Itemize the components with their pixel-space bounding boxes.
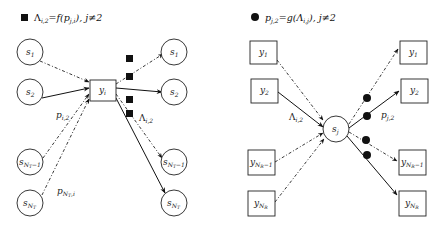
left-legend-text: Λi,2=f(pj,i), j≠2 <box>33 12 102 25</box>
edge-y1-to-sj <box>277 60 323 120</box>
node-yi-center: yi <box>90 80 116 101</box>
edge-yi-to-s2 <box>116 88 162 92</box>
filled-square-icon <box>126 55 133 62</box>
node-s2-right: s2 <box>161 79 187 105</box>
edge-yNr-1-to-sj <box>275 133 323 162</box>
node-sj-center: sj <box>323 116 349 142</box>
filled-circle-icon <box>363 112 371 120</box>
edge-yi-to-s1 <box>116 54 163 84</box>
filled-circle-icon <box>251 13 259 21</box>
node-yNr-1-left: yNR−1 <box>248 150 275 175</box>
node-yNr-1-right: yNR−1 <box>399 150 426 175</box>
node-sNt-right: sNT <box>161 190 187 216</box>
node-y1-left: y1 <box>250 41 277 64</box>
edge-yi-to-sNt-1 <box>116 94 162 158</box>
left-legend: Λi,2=f(pj,i), j≠2 <box>21 12 102 25</box>
edge-label-lambda-i2: Λi,2 <box>138 113 153 124</box>
filled-square-icon <box>126 110 133 117</box>
filled-circle-icon <box>363 94 371 102</box>
edge-sNt-1-to-yi <box>43 94 89 158</box>
node-s1-left: s1 <box>17 39 43 65</box>
filled-square-icon <box>126 73 133 80</box>
filled-circle-icon <box>363 151 371 159</box>
filled-square-icon <box>21 14 28 21</box>
node-sNt-1-left: sNT−1 <box>17 149 43 175</box>
node-sNt-left: sNT <box>17 190 43 216</box>
edge-s1-to-yi <box>40 61 89 82</box>
right-panel: pj,2=g(Λi,j), j≠2 y1 y2 yNR−1 <box>248 12 428 216</box>
node-s1-right: s1 <box>161 39 187 65</box>
edge-label-p-i2: pi,2 <box>56 110 70 121</box>
message-passing-diagram: Λi,2=f(pj,i), j≠2 s1 s2 sNT−1 <box>0 0 439 230</box>
node-sNt-1-right: sNT−1 <box>161 149 187 175</box>
node-y2-left: y2 <box>251 79 278 103</box>
left-panel: Λi,2=f(pj,i), j≠2 s1 s2 sNT−1 <box>17 12 187 216</box>
edge-s2-to-yi <box>42 88 89 98</box>
edge-label-p-Nt-i: pNT,i <box>57 186 75 198</box>
edge-sj-to-y1 <box>349 49 398 124</box>
node-y2-right: y2 <box>401 79 428 103</box>
edge-sj-to-yNr <box>347 136 397 195</box>
edge-yNr-to-sj <box>275 139 324 202</box>
right-legend: pj,2=g(Λi,j), j≠2 <box>251 12 336 25</box>
node-y1-right: y1 <box>400 41 427 64</box>
filled-circle-icon <box>362 136 370 144</box>
edge-sj-to-y2 <box>349 91 399 128</box>
filled-square-icon <box>126 96 133 103</box>
node-yNr-left: yNR <box>248 191 275 216</box>
edge-label-p-j2: pj,2 <box>381 110 395 122</box>
node-yNr-right: yNR <box>399 191 426 216</box>
right-legend-text: pj,2=g(Λi,j), j≠2 <box>265 12 336 25</box>
node-s2-left: s2 <box>17 79 43 105</box>
edge-label-lambda-i2-right: Λi,2 <box>288 112 303 123</box>
